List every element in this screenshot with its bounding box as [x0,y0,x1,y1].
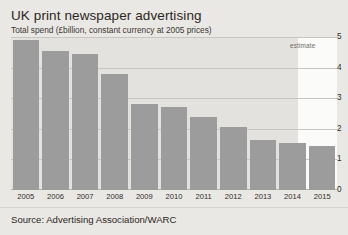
bar-2011[interactable] [190,117,217,190]
bar-slot [248,37,278,190]
chart-subtitle: Total spend (£billion, constant currency… [11,25,341,35]
bar-slot [307,37,337,190]
bar-slot [159,37,189,190]
chart-page: UK print newspaper advertising Total spe… [0,0,348,235]
estimate-annotation: estimate [290,42,315,49]
bar-slot [189,37,219,190]
source-note: Source: Advertising Association/WARC [11,214,176,225]
y-tick-label-4: 4 [337,64,342,72]
x-tick-label-2011: 2011 [189,192,219,202]
x-tick-label-2009: 2009 [130,192,160,202]
x-axis: 2005200620072008200920102011201220132014… [11,192,337,204]
bar-2013[interactable] [250,140,277,190]
bar-2009[interactable] [131,104,158,190]
page-title: UK print newspaper advertising [11,8,341,23]
bar-2006[interactable] [42,51,69,190]
bar-slot [130,37,160,190]
x-tick-label-2013: 2013 [248,192,278,202]
bar-2012[interactable] [220,127,247,190]
x-tick-label-2014: 2014 [278,192,308,202]
y-axis: 012345 [337,37,348,190]
x-tick-label-2010: 2010 [159,192,189,202]
bar-2015[interactable] [309,146,336,190]
bar-slot [218,37,248,190]
x-tick-label-2007: 2007 [70,192,100,202]
bar-2014[interactable] [279,143,306,190]
x-tick-label-2005: 2005 [11,192,41,202]
bar-2008[interactable] [101,74,128,190]
chart-header: UK print newspaper advertising Total spe… [11,8,341,35]
bar-slot [100,37,130,190]
plot-area [11,37,337,190]
y-tick-label-5: 5 [337,33,342,41]
bar-series [11,37,337,190]
y-tick-label-0: 0 [337,186,342,194]
x-tick-label-2008: 2008 [100,192,130,202]
bar-slot [11,37,41,190]
x-tick-label-2015: 2015 [307,192,337,202]
y-tick-label-2: 2 [337,125,342,133]
bar-slot [41,37,71,190]
bar-2010[interactable] [161,107,188,190]
y-tick-label-1: 1 [337,155,342,163]
bar-2005[interactable] [13,40,40,190]
x-tick-label-2012: 2012 [218,192,248,202]
bar-2007[interactable] [72,54,99,190]
x-tick-label-2006: 2006 [41,192,71,202]
y-tick-label-3: 3 [337,94,342,102]
bar-slot [70,37,100,190]
bar-slot [278,37,308,190]
footer-divider [0,207,348,208]
